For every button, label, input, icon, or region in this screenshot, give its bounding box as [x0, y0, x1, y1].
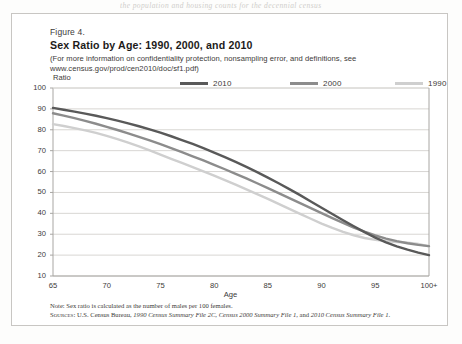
figure-sources: Sources: U.S. Census Bureau, 1990 Census…	[50, 310, 442, 319]
sources-text-1: U.S. Census Bureau,	[75, 311, 133, 318]
y-tick-label-50: 50	[26, 187, 46, 196]
y-tick-label-100: 100	[26, 83, 46, 92]
y-tick-label-10: 10	[26, 271, 46, 280]
x-tick-label-75: 75	[145, 281, 175, 290]
series-line-1990	[53, 124, 429, 246]
y-tick-label-20: 20	[26, 250, 46, 259]
sources-citation-2010: 2010 Census Summary File 1	[311, 311, 389, 318]
sources-text-3: , and	[296, 311, 310, 318]
sources-citation-2000: Census 2000 Summary File 1	[219, 311, 297, 318]
y-tick-label-40: 40	[26, 208, 46, 217]
sources-citation-1990: 1990 Census Summary File 2C	[133, 311, 215, 318]
series-line-2000	[53, 113, 429, 246]
x-axis-title: Age	[12, 290, 449, 299]
x-tick-label-95: 95	[360, 281, 390, 290]
sources-text-4: .	[388, 311, 390, 318]
x-tick-label-90: 90	[307, 281, 337, 290]
figure-container: Figure 4. Sex Ratio by Age: 1990, 2000, …	[11, 13, 448, 326]
y-tick-label-90: 90	[26, 104, 46, 113]
y-tick-label-60: 60	[26, 167, 46, 176]
sources-label: Sources:	[50, 311, 75, 318]
x-tick-label-65: 65	[38, 281, 68, 290]
document-page: the population and housing counts for th…	[0, 0, 462, 344]
x-tick-label-85: 85	[253, 281, 283, 290]
page-bleed-text: the population and housing counts for th…	[120, 1, 380, 10]
x-tick-label-70: 70	[92, 281, 122, 290]
figure-footnotes: Note: Sex ratio is calculated as the num…	[50, 301, 442, 319]
plot-area: 10203040506070809010065707580859095100+	[12, 14, 449, 327]
y-tick-label-70: 70	[26, 146, 46, 155]
x-tick-label-80: 80	[199, 281, 229, 290]
y-tick-label-80: 80	[26, 125, 46, 134]
figure-note: Note: Sex ratio is calculated as the num…	[50, 301, 442, 310]
x-tick-label-100+: 100+	[414, 281, 444, 290]
y-tick-label-30: 30	[26, 229, 46, 238]
